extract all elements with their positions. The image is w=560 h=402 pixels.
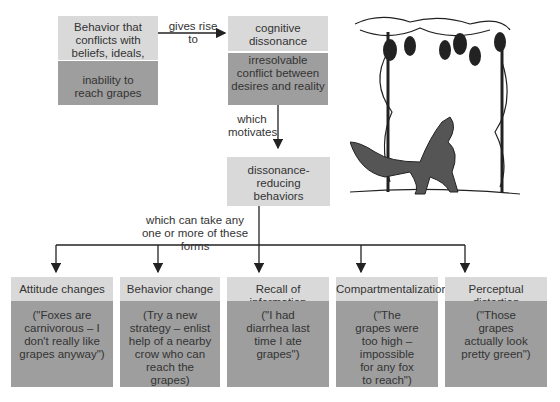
form-example-perceptual: ("Those grapes actually look pretty gree…: [445, 301, 547, 387]
forms-label: which can take any one or more of these …: [135, 214, 255, 253]
form-example-recall: ("I had diarrhea last time I ate grapes"…: [227, 301, 329, 387]
dissonance-reducing-box: dissonance-reducing behaviors: [227, 157, 330, 206]
form-example-attitude: ("Foxes are carnivorous – I don't really…: [11, 301, 113, 387]
form-title-compartmentalization: Compartmentalization: [336, 277, 438, 301]
inability-example-box: inability to reach grapes: [58, 61, 158, 105]
form-example-behavior: (Try a new strategy – enlist help of a n…: [120, 301, 220, 387]
form-title-behavior: Behavior change: [120, 277, 220, 301]
form-example-compartmentalization: ("The grapes were too high – impossible …: [336, 301, 438, 387]
gives-rise-label: gives rise to: [163, 20, 223, 46]
form-title-attitude: Attitude changes: [11, 277, 113, 301]
conflict-example-box: irresolvable conflict between desires an…: [228, 53, 328, 105]
form-title-recall: Recall of information: [227, 277, 329, 301]
cognitive-dissonance-box: cognitive dissonance: [228, 16, 328, 51]
form-title-perceptual: Perceptual distortion: [445, 277, 547, 301]
motivates-label: which motivates: [228, 113, 276, 139]
behavior-conflict-box: Behavior that conflicts with beliefs, id…: [58, 16, 158, 60]
fox-grapes-illustration: [350, 12, 520, 202]
